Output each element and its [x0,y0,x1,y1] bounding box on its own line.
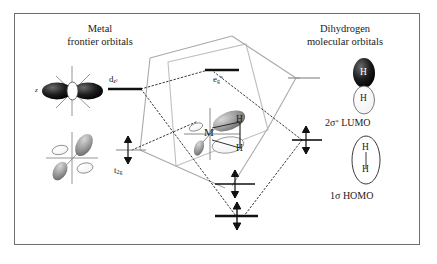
label-homo-hydrogen-top: H [362,142,369,152]
label-eg-star-sup: * [220,75,223,81]
label-eg-star: eg* [213,74,223,84]
heading-metal-line2: frontier orbitals [45,35,155,48]
label-t2g-sub: 2g [117,169,123,175]
label-complex-hydrogen-bottom: H [236,143,243,153]
label-lumo-hydrogen-bottom: H [360,93,367,103]
label-lumo-name: LUMO [341,117,370,128]
axis-label-z: z [35,86,38,94]
heading-dihydrogen-line1: Dihydrogen [280,22,410,35]
label-lumo-sup: * [335,118,338,125]
heading-metal: Metal frontier orbitals [45,22,155,48]
label-t2g: t2g [114,165,122,175]
figure-canvas: Metal frontier orbitals Dihydrogen molec… [0,0,437,264]
label-lumo: 2σ* LUMO [325,117,371,128]
label-complex-hydrogen-top: H [236,114,243,124]
heading-metal-line1: Metal [45,22,155,35]
heading-dihydrogen-line2: molecular orbitals [280,35,410,48]
label-homo: 1σ HOMO [330,190,373,201]
label-dz2: dz2 [109,74,118,84]
label-lumo-hydrogen-top: H [360,67,367,77]
label-lumo-symbol: 2σ [325,117,335,128]
label-dz2-sup: 2 [116,79,118,83]
label-metal-center: M [204,126,214,138]
label-homo-hydrogen-bottom: H [362,164,369,174]
heading-dihydrogen: Dihydrogen molecular orbitals [280,22,410,48]
